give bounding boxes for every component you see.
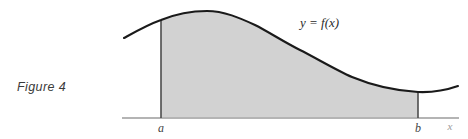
- integral-area-diagram: y = f(x) a b x: [0, 0, 468, 139]
- shaded-area-under-curve: [161, 11, 418, 118]
- x-axis-label: x: [447, 120, 453, 132]
- figure-container: Figure 4 y = f(x) a b x: [0, 0, 468, 139]
- curve-equation-label: y = f(x): [298, 15, 339, 30]
- tick-label-b: b: [415, 121, 421, 135]
- tick-label-a: a: [158, 121, 164, 135]
